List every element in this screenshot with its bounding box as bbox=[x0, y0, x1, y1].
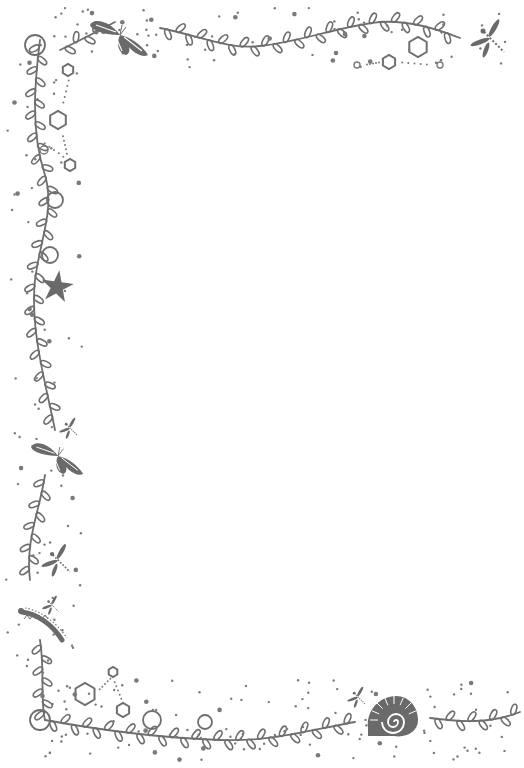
dot-icon bbox=[157, 50, 159, 52]
dot-icon bbox=[302, 726, 304, 728]
dot-icon bbox=[66, 85, 68, 87]
dot-icon bbox=[234, 742, 236, 744]
dot-icon bbox=[316, 753, 321, 758]
dot-icon bbox=[334, 51, 339, 56]
dot-icon bbox=[66, 153, 68, 155]
dot-icon bbox=[364, 719, 366, 721]
dot-icon bbox=[119, 694, 121, 696]
dot-icon bbox=[503, 750, 505, 752]
dot-icon bbox=[211, 35, 213, 37]
dot-icon bbox=[251, 41, 253, 43]
dot-icon bbox=[378, 62, 380, 64]
dot-icon bbox=[359, 738, 361, 740]
dot-icon bbox=[80, 532, 82, 534]
dot-icon bbox=[30, 313, 35, 318]
dot-icon bbox=[481, 24, 483, 26]
dot-icon bbox=[453, 693, 455, 695]
dot-icon bbox=[99, 688, 101, 690]
dot-icon bbox=[38, 552, 40, 554]
dot-icon bbox=[47, 339, 52, 344]
dot-icon bbox=[395, 746, 397, 748]
leaf-icon bbox=[333, 724, 345, 735]
dot-icon bbox=[37, 408, 39, 410]
hexagon-icon bbox=[117, 703, 129, 717]
ring-icon bbox=[354, 62, 360, 68]
leaf-icon bbox=[125, 723, 136, 735]
dot-icon bbox=[460, 688, 462, 690]
dot-icon bbox=[15, 191, 20, 196]
dot-icon bbox=[198, 691, 200, 693]
dot-icon bbox=[74, 568, 79, 573]
dot-icon bbox=[64, 35, 66, 37]
dot-icon bbox=[51, 703, 53, 705]
dot-icon bbox=[433, 752, 435, 754]
dot-icon bbox=[331, 58, 336, 63]
dot-icon bbox=[65, 734, 67, 736]
dot-icon bbox=[307, 692, 309, 694]
dot-icon bbox=[407, 62, 409, 64]
dot-icon bbox=[333, 20, 335, 22]
leaf-icon bbox=[38, 392, 49, 404]
dot-icon bbox=[36, 572, 38, 574]
dot-icon bbox=[143, 728, 148, 733]
dot-icon bbox=[65, 91, 67, 93]
dot-icon bbox=[64, 7, 66, 9]
dot-icon bbox=[146, 19, 148, 21]
dot-icon bbox=[483, 720, 485, 722]
dot-icon bbox=[117, 746, 119, 748]
dot-icon bbox=[372, 63, 374, 65]
dot-icon bbox=[120, 698, 122, 700]
dragonfly-bottom-icon bbox=[347, 686, 366, 708]
dot-icon bbox=[117, 690, 119, 692]
dot-icon bbox=[440, 31, 442, 33]
dot-icon bbox=[218, 15, 220, 17]
dot-icon bbox=[100, 705, 102, 707]
dot-icon bbox=[336, 688, 338, 690]
dot-icon bbox=[186, 44, 188, 46]
leaf-icon bbox=[500, 716, 512, 727]
dot-icon bbox=[44, 142, 46, 144]
dot-icon bbox=[44, 329, 46, 331]
dot-icon bbox=[65, 708, 67, 710]
dot-icon bbox=[53, 381, 55, 383]
dot-icon bbox=[101, 686, 103, 688]
dot-icon bbox=[60, 12, 62, 14]
hexagon-icon bbox=[50, 111, 66, 129]
moth-top-icon bbox=[90, 21, 148, 56]
dot-icon bbox=[478, 752, 480, 754]
dot-icon bbox=[366, 64, 368, 66]
dot-icon bbox=[60, 740, 62, 742]
dot-icon bbox=[175, 714, 177, 716]
dot-icon bbox=[475, 748, 477, 750]
leaf-icon bbox=[175, 23, 187, 34]
dot-icon bbox=[68, 80, 70, 82]
dot-icon bbox=[71, 645, 73, 647]
dot-icon bbox=[44, 382, 46, 384]
dot-icon bbox=[27, 659, 29, 661]
vine-loop-icon bbox=[42, 247, 58, 263]
leaf-icon bbox=[294, 38, 306, 49]
dot-icon bbox=[386, 24, 388, 26]
leaf-icon bbox=[358, 23, 369, 34]
dot-icon bbox=[390, 31, 392, 33]
dot-icon bbox=[94, 703, 96, 705]
dot-icon bbox=[186, 729, 188, 731]
leaf-icon bbox=[26, 327, 38, 338]
dot-icon bbox=[243, 748, 245, 750]
dot-icon bbox=[89, 752, 91, 754]
dot-icon bbox=[114, 681, 116, 683]
dot-icon bbox=[200, 737, 202, 739]
dot-icon bbox=[18, 623, 20, 625]
dot-icon bbox=[36, 98, 38, 100]
dot-icon bbox=[61, 629, 63, 631]
dot-icon bbox=[333, 28, 335, 30]
dot-icon bbox=[311, 54, 313, 56]
dot-icon bbox=[426, 689, 428, 691]
dot-icon bbox=[31, 270, 33, 272]
dot-icon bbox=[301, 698, 303, 700]
dot-icon bbox=[299, 734, 301, 736]
dot-icon bbox=[34, 403, 36, 405]
dot-icon bbox=[51, 740, 53, 742]
dot-icon bbox=[414, 63, 416, 65]
dot-icon bbox=[51, 426, 53, 428]
